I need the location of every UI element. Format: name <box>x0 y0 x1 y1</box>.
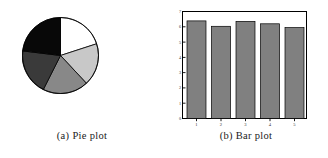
y-tick-label-4: 4 <box>179 55 182 60</box>
x-tick-label-5: 5 <box>293 122 296 127</box>
x-axis-tick-labels: 1 2 3 4 5 <box>195 122 296 127</box>
bar-5 <box>285 28 304 119</box>
caption-tag-a: (a) <box>57 130 70 141</box>
pie-chart <box>22 17 99 94</box>
bar-3 <box>236 21 255 118</box>
x-tick-label-3: 3 <box>244 122 247 127</box>
subfigure-caption-a: (a)Pie plot <box>0 130 164 141</box>
y-tick-label-0: 0 <box>179 116 181 121</box>
y-tick-label-6: 6 <box>179 24 181 29</box>
x-tick-label-1: 1 <box>195 122 198 127</box>
y-tick-label-2: 2 <box>179 85 181 90</box>
y-tick-label-3: 3 <box>179 70 181 75</box>
y-tick-label-5: 5 <box>179 40 181 45</box>
x-tick-label-2: 2 <box>220 122 223 127</box>
y-axis-tick-labels: 0 1 2 3 4 5 6 7 <box>179 9 182 121</box>
caption-tag-b: (b) <box>220 130 233 141</box>
figure-row: (a)Pie plot 0 <box>0 0 328 158</box>
caption-text-b: Bar plot <box>236 130 273 141</box>
x-tick-label-4: 4 <box>269 122 272 127</box>
caption-text-a: Pie plot <box>72 130 107 141</box>
bar-2 <box>212 26 231 118</box>
bar-chart: 0 1 2 3 4 5 6 7 <box>177 8 317 126</box>
y-tick-label-7: 7 <box>179 9 181 14</box>
bar-4 <box>261 24 280 119</box>
bar-chart-svg: 0 1 2 3 4 5 6 7 <box>177 8 317 126</box>
bar-1 <box>187 21 206 119</box>
bar-series <box>187 21 304 119</box>
subfigure-bar: 0 1 2 3 4 5 6 7 <box>164 0 328 158</box>
pie-chart-svg <box>22 17 99 94</box>
subfigure-caption-b: (b)Bar plot <box>164 130 328 141</box>
subfigure-pie: (a)Pie plot <box>0 0 164 158</box>
y-tick-label-1: 1 <box>179 101 181 106</box>
pie-slice-5 <box>23 17 61 55</box>
